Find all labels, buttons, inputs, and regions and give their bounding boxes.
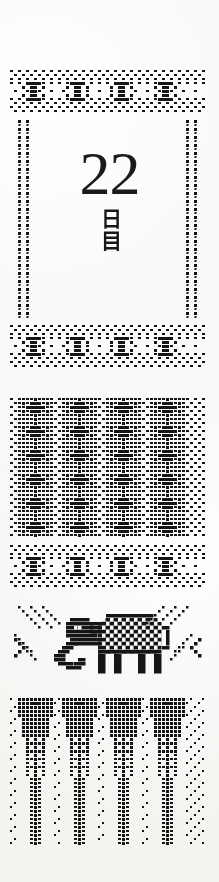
band-lattice bbox=[10, 398, 209, 538]
band-elephant bbox=[10, 602, 209, 694]
day-label: 日目 bbox=[99, 208, 120, 252]
day-number: 22 bbox=[80, 142, 140, 204]
band-pines bbox=[10, 698, 209, 846]
date-cartouche: 22 日目 bbox=[10, 120, 209, 320]
band-mid-bowtie bbox=[10, 325, 209, 373]
band-top-bowtie bbox=[10, 70, 209, 118]
sampler-sheet: 22 日目 bbox=[10, 0, 209, 882]
band-lower-bowtie bbox=[10, 545, 209, 593]
